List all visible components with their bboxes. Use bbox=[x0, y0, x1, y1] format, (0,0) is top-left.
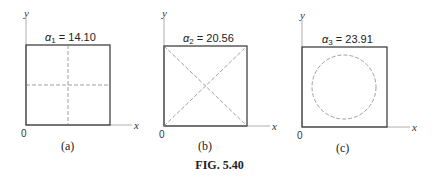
square-region bbox=[302, 47, 387, 127]
y-axis-label: y bbox=[23, 7, 29, 19]
panel-a: y x 0 α1 = 14.10 (a) bbox=[21, 7, 139, 153]
figure-canvas: y x 0 α1 = 14.10 (a) y x 0 α2 = 20.56 (b… bbox=[0, 0, 439, 179]
x-axis-label: x bbox=[133, 119, 139, 131]
alpha-1-label: α1 = 14.10 bbox=[45, 31, 96, 45]
alpha-3-label: α3 = 23.91 bbox=[322, 33, 373, 47]
dashed-inscribed-circle bbox=[312, 55, 376, 119]
sublabel-a: (a) bbox=[61, 139, 74, 153]
figure-caption: FIG. 5.40 bbox=[195, 158, 243, 172]
y-axis-label: y bbox=[161, 7, 167, 19]
sublabel-b: (b) bbox=[198, 139, 212, 153]
x-axis-label: x bbox=[411, 121, 417, 133]
panel-c: y x 0 α3 = 23.91 (c) bbox=[297, 9, 417, 155]
sublabel-c: (c) bbox=[336, 141, 349, 155]
origin-label: 0 bbox=[21, 128, 27, 139]
x-axis-label: x bbox=[271, 120, 277, 132]
alpha-2-label: α2 = 20.56 bbox=[183, 32, 234, 46]
y-axis-label: y bbox=[299, 9, 305, 21]
origin-label: 0 bbox=[159, 129, 165, 140]
panel-b: y x 0 α2 = 20.56 (b) bbox=[159, 7, 277, 153]
origin-label: 0 bbox=[297, 130, 303, 141]
